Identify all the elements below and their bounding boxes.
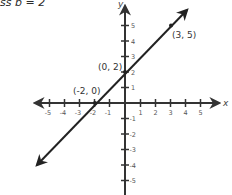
point-marker-3-5 <box>169 24 173 28</box>
coordinate-plane: -5 -4 -3 -2 -1 1 2 3 4 5 5 4 3 2 1 -1 -2… <box>0 0 232 195</box>
y-tick-label: -5 <box>130 177 136 185</box>
x-tick-label: -5 <box>45 109 51 117</box>
point-label-0-2: (0, 2) <box>98 62 122 72</box>
x-tick-label: -1 <box>105 109 111 117</box>
point-label-3-5: (3, 5) <box>172 30 196 40</box>
point-marker-neg2-0 <box>93 101 97 105</box>
x-tick-label: 2 <box>153 109 157 117</box>
y-tick-label: 5 <box>131 22 135 30</box>
x-axis-label: x <box>222 98 229 108</box>
x-tick-label: 1 <box>138 109 142 117</box>
y-tick-label: 4 <box>131 38 135 46</box>
x-tick-label: 3 <box>168 109 172 117</box>
x-tick-label: 5 <box>198 109 202 117</box>
x-tick-label: -3 <box>75 109 81 117</box>
y-tick-label: 3 <box>131 53 135 61</box>
y-tick-label: -3 <box>130 146 136 154</box>
y-tick-label: 1 <box>131 84 135 92</box>
plotted-line <box>37 10 187 165</box>
y-tick-label: 2 <box>131 69 135 77</box>
y-axis-label: y <box>117 0 124 9</box>
x-tick-label: -4 <box>60 109 66 117</box>
x-tick-label: 4 <box>183 109 187 117</box>
y-tick-label: -4 <box>130 162 136 170</box>
y-tick-label: -1 <box>130 115 136 123</box>
point-marker-0-2 <box>123 70 127 74</box>
y-tick-label: -2 <box>130 131 136 139</box>
point-label-neg2-0: (-2, 0) <box>73 86 100 96</box>
